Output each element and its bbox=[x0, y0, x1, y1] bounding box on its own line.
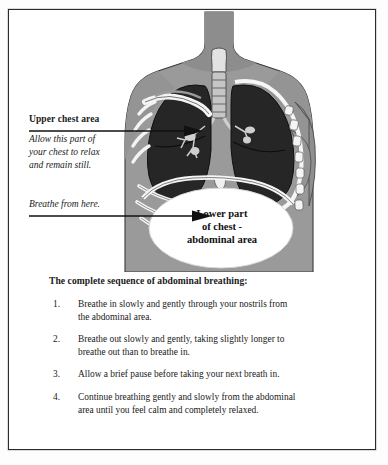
step-number: 1. bbox=[53, 298, 71, 311]
step-line: Allow a brief pause before taking your n… bbox=[78, 368, 349, 381]
upper-chest-body-line-3: and remain still. bbox=[29, 159, 189, 172]
breathe-from-here-line-1: Breathe from here. bbox=[29, 198, 209, 211]
document-page: Lower part of chest - abdominal area Upp… bbox=[0, 0, 388, 465]
instructions-block: The complete sequence of abdominal breat… bbox=[49, 274, 349, 416]
step-number: 3. bbox=[53, 368, 71, 381]
step-text: Breathe out slowly and gently, taking sl… bbox=[78, 333, 349, 358]
step-number: 2. bbox=[53, 333, 71, 346]
instruction-step: 1. Breathe in slowly and gently through … bbox=[49, 298, 349, 323]
step-line: Breathe out slowly and gently, taking sl… bbox=[78, 333, 349, 346]
step-line: breathe out than to breathe in. bbox=[78, 346, 349, 359]
step-line: the abdominal area. bbox=[78, 311, 349, 324]
step-text: Breathe in slowly and gently through you… bbox=[78, 298, 349, 323]
step-line: Continue breathing gently and slowly fro… bbox=[78, 391, 349, 404]
instruction-step: 4. Continue breathing gently and slowly … bbox=[49, 391, 349, 416]
step-line: area until you feel calm and completely … bbox=[78, 404, 349, 417]
upper-chest-body-line-1: Allow this part of bbox=[29, 133, 189, 146]
abdomen-label-line-3: abdominal area bbox=[187, 234, 258, 245]
abdomen-label-line-2: of chest - bbox=[202, 221, 243, 232]
breathe-from-here-body: Breathe from here. bbox=[29, 198, 209, 211]
upper-chest-body: Allow this part of your chest to relax a… bbox=[29, 133, 189, 171]
instruction-step: 2. Breathe out slowly and gently, taking… bbox=[49, 333, 349, 358]
instructions-heading: The complete sequence of abdominal breat… bbox=[49, 274, 349, 287]
step-text: Allow a brief pause before taking your n… bbox=[78, 368, 349, 381]
step-number: 4. bbox=[53, 391, 71, 404]
instruction-step: 3. Allow a brief pause before taking you… bbox=[49, 368, 349, 381]
step-line: Breathe in slowly and gently through you… bbox=[78, 298, 349, 311]
breathe-from-here-callout: Breathe from here. bbox=[29, 198, 209, 211]
upper-chest-body-line-2: your chest to relax bbox=[29, 146, 189, 159]
step-text: Continue breathing gently and slowly fro… bbox=[78, 391, 349, 416]
upper-chest-title: Upper chest area bbox=[29, 113, 189, 125]
upper-chest-callout: Upper chest area Allow this part of your… bbox=[29, 113, 189, 171]
